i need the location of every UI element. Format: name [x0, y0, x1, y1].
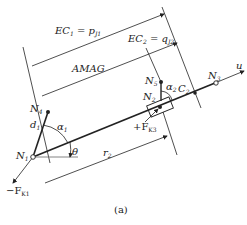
ec2-dimension-line — [42, 43, 177, 96]
alpha1-label: α1 — [57, 121, 68, 133]
n2-label: N2 — [142, 91, 156, 103]
amag-label: AMAG — [71, 63, 105, 74]
fk1-label: −FK1 — [6, 185, 30, 197]
theta-label: θ — [72, 146, 78, 157]
ec2-label: EC2 = qJ2 — [127, 33, 174, 46]
figure-caption: (a) — [114, 204, 128, 215]
c2-label: C2 — [178, 83, 190, 95]
ec1-label: EC1 = pJ1 — [54, 25, 101, 38]
n4-node — [46, 110, 50, 114]
r2-label: r2 — [103, 147, 112, 159]
kinematic-diagram: EC1 = pJ1 EC2 = qJ2 AMAG N4 N5 N2 N3 C2 … — [0, 0, 247, 225]
c2-node — [193, 91, 197, 95]
n1-node — [31, 155, 36, 160]
n5-node — [159, 80, 163, 84]
n4-label: N4 — [29, 103, 43, 115]
r2-extension-line — [163, 112, 177, 155]
u-label: u — [236, 60, 242, 71]
r2-dimension-line — [45, 136, 167, 183]
alpha2-label: α2 — [166, 81, 177, 93]
theta-arc — [70, 142, 71, 157]
alpha2-arc — [161, 91, 172, 100]
n5-label: N5 — [144, 75, 158, 87]
fk3-label: +FK3 — [133, 121, 157, 133]
n3-label: N3 — [207, 70, 221, 82]
d1-label: d1 — [30, 119, 40, 131]
n2-node — [158, 105, 162, 109]
n1-label: N1 — [15, 150, 29, 162]
